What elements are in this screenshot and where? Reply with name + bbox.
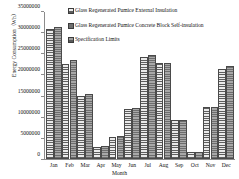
y-tick-label: 20000000: [18, 66, 40, 72]
bar: [85, 94, 93, 159]
y-tick-label: 35000000: [18, 3, 40, 9]
x-tick-label: Aug: [156, 162, 172, 168]
bar: [203, 107, 211, 159]
bar: [54, 27, 62, 159]
bar: [218, 69, 226, 159]
bar: [226, 66, 234, 159]
bar: [148, 55, 156, 159]
legend-label: Glass Regenerated Pumice Concrete Block …: [75, 23, 203, 29]
bar: [93, 147, 101, 159]
bar: [195, 152, 203, 159]
bar: [211, 107, 219, 159]
y-tick-label: 15000000: [18, 88, 40, 94]
bar: [62, 64, 70, 159]
x-tick-label: Sep: [171, 162, 187, 168]
bar: [156, 63, 164, 159]
bar-group-dec: [218, 12, 234, 159]
legend-item-external-insulation: Glass Regenerated Pumice External Insula…: [68, 8, 203, 14]
bar-group-nov: [203, 12, 219, 159]
x-tick-label: Nov: [203, 162, 219, 168]
x-tick-label: Feb: [62, 162, 78, 168]
x-axis-tick-labels: JanFebMarAprMayJunJulAugSepOctNovDec: [45, 162, 235, 168]
x-tick-label: May: [109, 162, 125, 168]
y-tick-label: 10000000: [18, 109, 40, 115]
bar: [117, 136, 125, 159]
y-tick-label: 0: [37, 151, 40, 157]
legend-label: Specification Limits: [75, 37, 120, 43]
x-tick-label: Jun: [124, 162, 140, 168]
bar: [124, 109, 132, 159]
bar: [140, 57, 148, 159]
x-tick-label: Oct: [187, 162, 203, 168]
bar: [187, 152, 195, 159]
x-axis-title: Month: [0, 170, 239, 176]
y-tick-label: 5000000: [20, 130, 40, 136]
y-tick-label: 25000000: [18, 45, 40, 51]
bar: [101, 146, 109, 159]
bar: [109, 137, 117, 159]
bar: [70, 60, 78, 159]
legend-item-concrete-block-self-insulation: Glass Regenerated Pumice Concrete Block …: [68, 23, 203, 29]
chart-legend: Glass Regenerated Pumice External Insula…: [68, 8, 203, 43]
x-axis-line: [44, 159, 235, 160]
legend-label: Glass Regenerated Pumice External Insula…: [75, 8, 177, 14]
x-tick-label: Jul: [140, 162, 156, 168]
x-tick-label: Dec: [218, 162, 234, 168]
legend-swatch-icon: [68, 37, 74, 43]
bar: [171, 120, 179, 159]
x-tick-label: Jan: [46, 162, 62, 168]
bar: [164, 63, 172, 160]
bar-chart: Energy Consumption（Wh） 0 5000000 1000000…: [0, 0, 239, 179]
bar: [77, 96, 85, 159]
legend-item-specification-limits: Specification Limits: [68, 37, 203, 43]
legend-swatch-icon: [68, 8, 74, 14]
x-tick-label: Mar: [77, 162, 93, 168]
bar: [132, 108, 140, 159]
bar-group-jan: [46, 12, 62, 159]
legend-swatch-icon: [68, 23, 74, 29]
bar: [46, 29, 54, 159]
y-tick-label: 30000000: [18, 24, 40, 30]
x-tick-label: Apr: [93, 162, 109, 168]
bar: [179, 120, 187, 159]
